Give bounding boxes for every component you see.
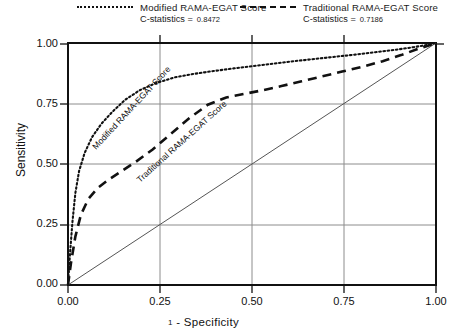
x-axis-title-lead: 1	[168, 318, 173, 327]
legend-cstat-label-modified: C-statistics =	[140, 14, 193, 24]
xtick-label-0.50: 0.50	[232, 295, 272, 307]
roc-curve-figure: Modified RAMA-EGAT Score C-statistics = …	[0, 0, 456, 335]
legend-line-dotted-icon	[77, 6, 133, 8]
legend-cstat-label-traditional: C-statistics =	[303, 14, 356, 24]
legend-row-traditional: Traditional RAMA-EGAT Score	[240, 0, 438, 14]
ytick-label-0.00: 0.00	[22, 277, 58, 289]
plot-area: Modified RAMA-EGAT Score Traditional RAM…	[0, 0, 456, 335]
x-axis-title: 1 - Specificity	[168, 316, 239, 328]
inline-label-traditional: Traditional RAMA-EGAT Score	[135, 98, 229, 184]
xtick-label-0.00: 0.00	[48, 295, 88, 307]
xtick-label-1.00: 1.00	[416, 295, 456, 307]
legend-cstat-value-modified: 0.8472	[197, 15, 220, 24]
xtick-label-0.25: 0.25	[140, 295, 180, 307]
legend-cstat-value-traditional: 0.7186	[360, 15, 383, 24]
ytick-label-0.25: 0.25	[22, 217, 58, 229]
x-axis-title-text: - Specificity	[176, 316, 239, 328]
legend-cstat-traditional: C-statistics = 0.7186	[303, 14, 438, 24]
y-axis-title: Sensitivity	[14, 95, 28, 205]
legend-entry-modified: Modified RAMA-EGAT Score C-statistics = …	[77, 0, 266, 24]
legend-row-modified: Modified RAMA-EGAT Score	[77, 0, 266, 14]
legend-label-traditional: Traditional RAMA-EGAT Score	[303, 2, 438, 13]
xtick-label-0.75: 0.75	[324, 295, 364, 307]
legend-entry-traditional: Traditional RAMA-EGAT Score C-statistics…	[240, 0, 438, 24]
legend-line-dashed-icon	[240, 6, 296, 8]
ytick-label-1.00: 1.00	[22, 37, 58, 49]
